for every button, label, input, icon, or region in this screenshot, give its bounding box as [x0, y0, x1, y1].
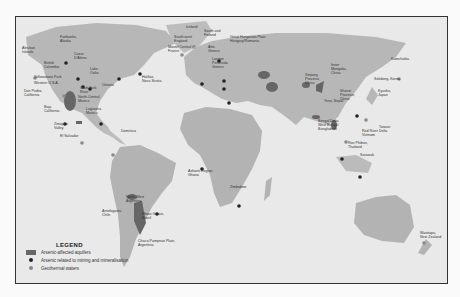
label-iceland: Iceland	[186, 25, 198, 29]
label-north-central-mexico: North-Central Mexico	[78, 95, 100, 103]
label-sarawak: Sarawak	[360, 153, 374, 157]
label-british-columbia: British Columbia	[44, 61, 59, 69]
label-yellowstone: Yellowstone Park	[34, 75, 61, 79]
label-el-salvador: El Salvador	[60, 134, 78, 138]
label-western-usa: Western U.S.A.	[34, 81, 59, 85]
label-kyushu-japan: Kyushu, Japan	[378, 89, 391, 97]
landmass-new-zealand	[418, 239, 432, 255]
landmass-japan	[366, 87, 378, 105]
label-lagunera-mexico: Lagunera Mexico	[86, 107, 101, 115]
label-attic-greece: Attic Greece	[208, 45, 220, 53]
legend-item-geothermal: Geothermal waters	[26, 264, 186, 272]
label-inner-mongolia: Inner Mongolia, China	[331, 63, 347, 75]
label-south-finland: South and Finland	[204, 29, 220, 37]
label-don-pedro: Don Pedro, California	[24, 89, 42, 97]
label-aleutian-islands: Aleutian Islands	[22, 46, 35, 54]
label-antofagasta-chile: Antofagasta Chile	[102, 209, 121, 217]
label-lake-oahe: Lake Oahe	[90, 67, 99, 75]
label-bengal-delta: Bengal Delta West Bengal Bangladesh	[318, 119, 339, 131]
label-baja-california: Baja California	[44, 105, 59, 113]
label-great-hungarian-plain: Great Hungarian Plain Hungary/Romania	[230, 35, 266, 43]
label-halifax: Halifax, Nova Scotia	[142, 75, 161, 83]
label-kamchatka: Kamchatka	[391, 57, 409, 61]
legend-label: Geothermal waters	[41, 266, 79, 271]
legend: LEGEND Arsenic-affected aquifers Arsenic…	[26, 242, 186, 272]
label-clark-fork: Clark Fork River	[80, 86, 97, 94]
label-fairbanks: Fairbanks, Alaska	[60, 35, 77, 43]
label-coeur-dalene: Coeur D'Alene	[74, 52, 86, 60]
label-waiotapu-nz: Waiotapu, New Zealand	[420, 231, 441, 239]
label-massif-central: Massif Central (f) France	[168, 45, 195, 53]
label-north-west-argentina: North-West Argentina	[126, 195, 144, 203]
legend-label: Arsenic related to mining and mineralisa…	[41, 258, 128, 263]
label-red-river-delta: Red River Delta Vietnam	[362, 129, 387, 137]
aquifer-swatch-icon	[26, 250, 36, 255]
landmass-madagascar	[264, 177, 272, 201]
label-terai-nepal: Terai, Nepal	[324, 99, 343, 103]
landmass-africa	[180, 107, 262, 207]
label-zimbabwe: Zimbabwe	[230, 185, 247, 189]
label-lavrion-greece: Lavrion Peninsula Greece	[212, 57, 228, 69]
label-ontario: Ontario	[102, 83, 114, 87]
label-xinjiang: Xinjiang Province, China	[305, 73, 320, 85]
mining-dot-icon	[29, 258, 33, 262]
label-ashanti-ghana: Ashanti Region, Ghana	[188, 169, 213, 177]
label-zimapan-valley: Zimapan Valley	[54, 122, 68, 130]
landmass-australia	[354, 195, 414, 243]
world-map-frame: Fairbanks, Alaska Aleutian Islands Coeur…	[15, 16, 448, 284]
legend-label: Arsenic-affected aquifers	[41, 250, 91, 255]
label-south-west-england: South-west England	[174, 35, 192, 43]
legend-item-mining: Arsenic related to mining and mineralisa…	[26, 256, 186, 264]
legend-item-aquifers: Arsenic-affected aquifers	[26, 248, 186, 256]
label-sokdong-korea: Sokdong, Korea	[374, 77, 400, 81]
label-ron-phibun: Ron Phibun, Thailand	[348, 141, 368, 149]
geothermal-dot-icon	[29, 266, 33, 270]
label-minas-gerais: Minas Gerais, Brazil	[142, 212, 164, 220]
label-dominica: Dominica	[121, 129, 136, 133]
